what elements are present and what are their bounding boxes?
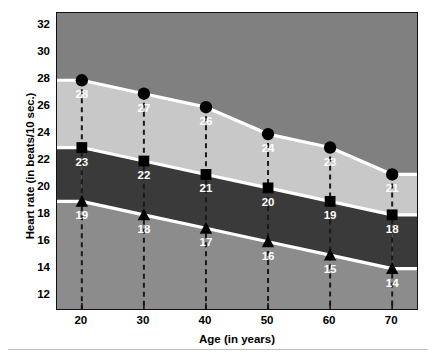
data-label: 18 [137, 223, 150, 235]
data-label: 18 [386, 223, 399, 235]
x-tick-label: 60 [309, 315, 349, 327]
y-tick-label: 18 [20, 208, 50, 220]
x-tick-label: 50 [247, 315, 287, 327]
x-tick-label: 30 [123, 315, 163, 327]
y-tick-label: 28 [20, 73, 50, 85]
data-label: 23 [75, 156, 88, 168]
chart-figure: Heart rate (in beats/10 sec.) Age (in ye… [0, 0, 436, 355]
marker-square[interactable] [138, 156, 149, 167]
band-edge-fill [57, 13, 82, 80]
x-axis-title: Age (in years) [56, 333, 418, 345]
band-edge-fill [392, 174, 417, 214]
marker-circle[interactable] [324, 141, 336, 153]
marker-square[interactable] [263, 183, 274, 194]
data-label: 21 [200, 182, 213, 194]
data-label: 15 [324, 263, 337, 275]
data-label: 19 [75, 209, 88, 221]
y-tick-label: 22 [20, 154, 50, 166]
plot-canvas: 282726242321232221201918191817161514 [57, 13, 417, 309]
y-tick-label: 30 [20, 46, 50, 58]
data-label: 28 [75, 88, 88, 100]
x-tick-label: 20 [61, 315, 101, 327]
band-edge-fill [392, 269, 417, 309]
marker-circle[interactable] [76, 74, 88, 86]
data-label: 26 [200, 115, 213, 127]
marker-square[interactable] [76, 142, 87, 153]
marker-square[interactable] [201, 169, 212, 180]
marker-circle[interactable] [200, 101, 212, 113]
footer-divider [8, 349, 428, 350]
marker-square[interactable] [325, 196, 336, 207]
y-tick-label: 16 [20, 235, 50, 247]
x-tick-label: 40 [185, 315, 225, 327]
marker-circle[interactable] [138, 88, 150, 100]
data-label: 24 [262, 142, 275, 154]
data-label: 21 [386, 182, 399, 194]
data-label: 16 [262, 250, 275, 262]
marker-circle[interactable] [262, 128, 274, 140]
plot-area: 282726242321232221201918191817161514 [56, 12, 418, 310]
x-tick-label: 70 [371, 315, 411, 327]
marker-circle[interactable] [386, 168, 398, 180]
band-edge-fill [392, 13, 417, 174]
y-tick-label: 32 [20, 19, 50, 31]
data-label: 19 [324, 209, 337, 221]
data-label: 27 [137, 102, 150, 114]
data-label: 17 [200, 236, 213, 248]
marker-square[interactable] [387, 209, 398, 220]
y-tick-label: 12 [20, 289, 50, 301]
data-label: 14 [386, 277, 399, 289]
data-label: 20 [262, 196, 275, 208]
y-tick-label: 24 [20, 127, 50, 139]
y-tick-label: 20 [20, 181, 50, 193]
data-label: 23 [324, 156, 337, 168]
data-label: 22 [137, 169, 150, 181]
y-tick-label: 14 [20, 262, 50, 274]
y-tick-label: 26 [20, 100, 50, 112]
